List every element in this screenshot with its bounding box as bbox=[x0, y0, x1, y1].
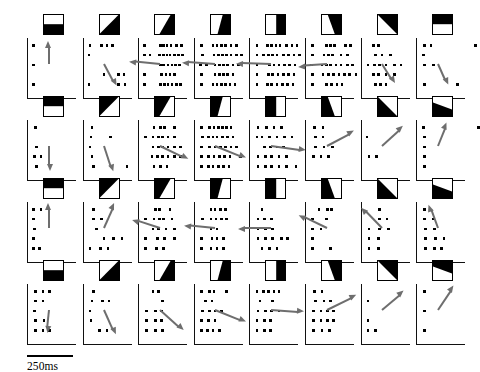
spike-mark bbox=[167, 64, 170, 67]
spike-mark bbox=[42, 290, 45, 293]
raster-panel-r1-c1 bbox=[27, 38, 76, 99]
spike-mark bbox=[320, 319, 323, 322]
raster-panel-r1-c6 bbox=[305, 38, 354, 99]
spike-mark bbox=[210, 218, 213, 221]
spike-mark bbox=[32, 247, 35, 250]
stimulus-icon-r3-c7 bbox=[377, 178, 398, 199]
spike-mark bbox=[158, 54, 161, 57]
spike-mark bbox=[378, 218, 381, 221]
spike-mark bbox=[261, 208, 264, 211]
spike-mark bbox=[340, 64, 343, 67]
spike-mark bbox=[123, 73, 126, 76]
spike-mark bbox=[200, 146, 203, 149]
spike-mark bbox=[35, 165, 38, 168]
spike-mark bbox=[228, 165, 231, 168]
spike-mark bbox=[270, 218, 273, 221]
spike-mark bbox=[257, 165, 260, 168]
spike-mark bbox=[91, 300, 94, 303]
stimulus-icon-r2-c5 bbox=[265, 96, 286, 117]
spike-mark bbox=[222, 165, 225, 168]
spike-mark bbox=[393, 64, 396, 67]
spike-mark bbox=[48, 290, 51, 293]
spike-mark bbox=[174, 64, 177, 67]
direction-arrow bbox=[160, 310, 182, 330]
spike-mark bbox=[200, 165, 203, 168]
spike-mark bbox=[200, 319, 203, 322]
stimulus-icon-r3-c4 bbox=[210, 178, 231, 199]
spike-mark bbox=[275, 44, 278, 47]
spike-mark bbox=[372, 73, 375, 76]
spike-mark bbox=[377, 247, 380, 250]
spike-mark bbox=[173, 228, 176, 231]
spike-mark bbox=[99, 247, 102, 250]
arrow-head bbox=[44, 325, 51, 333]
spike-mark bbox=[332, 73, 335, 76]
arrow-head bbox=[297, 212, 306, 220]
raster-panel-r1-c8 bbox=[416, 38, 465, 99]
spike-mark bbox=[173, 146, 176, 149]
spike-mark bbox=[154, 310, 157, 313]
spike-mark bbox=[367, 319, 370, 322]
spike-mark bbox=[257, 126, 260, 129]
arrow-shaft bbox=[47, 209, 49, 228]
icon-dark-region bbox=[432, 101, 453, 117]
spike-mark bbox=[161, 136, 164, 139]
raster-panel-r2-c4 bbox=[194, 120, 243, 181]
spike-mark bbox=[100, 44, 103, 47]
spike-mark bbox=[235, 54, 238, 57]
spike-mark bbox=[43, 319, 46, 322]
icon-dark-region bbox=[43, 271, 64, 281]
spike-mark bbox=[90, 319, 93, 322]
spike-mark bbox=[311, 73, 314, 76]
spike-mark bbox=[152, 228, 155, 231]
spike-mark bbox=[175, 83, 178, 86]
stimulus-icon-r3-c8 bbox=[432, 178, 453, 199]
arrow-head bbox=[441, 121, 449, 130]
spike-mark bbox=[322, 126, 325, 129]
icon-dark-region bbox=[321, 178, 337, 199]
direction-arrow bbox=[104, 146, 112, 171]
spike-mark bbox=[103, 73, 106, 76]
spike-mark bbox=[263, 218, 266, 221]
direction-arrow bbox=[438, 123, 447, 145]
spike-mark bbox=[214, 208, 217, 211]
stimulus-icon-r2-c7 bbox=[377, 96, 398, 117]
stimulus-icon-r4-c5 bbox=[265, 260, 286, 281]
spike-mark bbox=[88, 54, 91, 57]
spike-mark bbox=[160, 319, 163, 322]
spike-mark bbox=[288, 64, 291, 67]
spike-mark bbox=[169, 73, 172, 76]
spike-mark bbox=[267, 290, 270, 293]
spike-mark bbox=[340, 54, 343, 57]
stimulus-icon-r3-c5 bbox=[265, 178, 286, 199]
spike-mark bbox=[175, 44, 178, 47]
arrow-head bbox=[426, 203, 434, 212]
spike-mark bbox=[367, 64, 370, 67]
scale-bar-label: 250ms bbox=[27, 360, 58, 372]
spike-mark bbox=[256, 73, 259, 76]
spike-mark bbox=[162, 247, 165, 250]
spike-mark bbox=[95, 228, 98, 231]
spike-mark bbox=[366, 136, 369, 139]
spike-mark bbox=[256, 54, 259, 57]
spike-mark bbox=[90, 136, 93, 139]
stimulus-icon-r2-c3 bbox=[154, 96, 175, 117]
spike-mark bbox=[331, 54, 334, 57]
spike-mark bbox=[221, 126, 224, 129]
spike-mark bbox=[285, 44, 288, 47]
spike-mark bbox=[143, 44, 146, 47]
spike-mark bbox=[256, 329, 259, 332]
raster-panel-r1-c4 bbox=[194, 38, 243, 99]
raster-panel-r3-c6 bbox=[305, 202, 354, 263]
spike-mark bbox=[368, 247, 371, 250]
spike-mark bbox=[103, 237, 106, 240]
spike-mark bbox=[101, 300, 104, 303]
spike-mark bbox=[157, 136, 160, 139]
spike-mark bbox=[338, 73, 341, 76]
spike-mark bbox=[256, 136, 259, 139]
spike-mark bbox=[121, 237, 124, 240]
spike-mark bbox=[321, 290, 324, 293]
direction-arrow bbox=[237, 62, 271, 63]
arrow-head bbox=[182, 59, 189, 65]
icon-dark-region bbox=[377, 178, 398, 199]
